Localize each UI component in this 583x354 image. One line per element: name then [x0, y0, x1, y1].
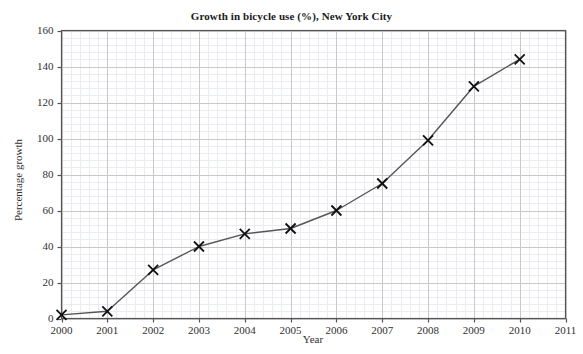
x-tick-label: 2002 [130, 324, 176, 336]
x-tick-label: 2005 [268, 324, 314, 336]
y-tick-label: 40 [22, 240, 54, 252]
plot-area [0, 0, 583, 354]
y-tick-label: 140 [22, 60, 54, 72]
y-tick-label: 160 [22, 24, 54, 36]
y-tick-label: 120 [22, 96, 54, 108]
data-series-line [62, 59, 520, 315]
axis-ticks [58, 32, 567, 323]
y-tick-label: 20 [22, 276, 54, 288]
x-tick-label: 2000 [39, 324, 85, 336]
x-tick-label: 2001 [84, 324, 130, 336]
y-tick-label: 0 [22, 312, 54, 324]
x-tick-label: 2006 [313, 324, 359, 336]
chart-container: Growth in bicycle use (%), New York City… [0, 0, 583, 354]
y-tick-label: 60 [22, 204, 54, 216]
x-tick-label: 2010 [497, 324, 543, 336]
y-tick-label: 80 [22, 168, 54, 180]
x-tick-label: 2004 [222, 324, 268, 336]
x-tick-label: 2009 [451, 324, 497, 336]
x-tick-label: 2008 [405, 324, 451, 336]
y-tick-label: 100 [22, 132, 54, 144]
major-gridlines [62, 31, 567, 320]
x-tick-label: 2003 [176, 324, 222, 336]
x-tick-label: 2011 [543, 324, 583, 336]
x-tick-label: 2007 [359, 324, 405, 336]
